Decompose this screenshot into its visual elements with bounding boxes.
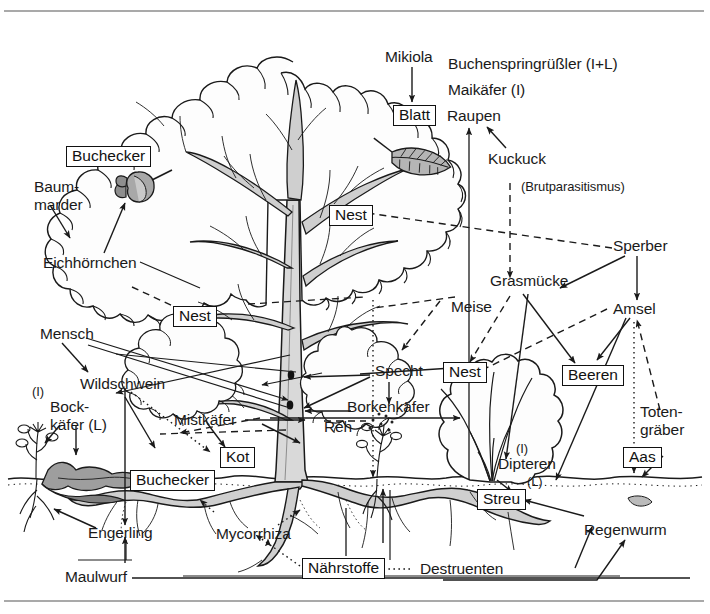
label-wildschwein: Wildschwein xyxy=(80,375,165,392)
label-amsel: Amsel xyxy=(613,300,656,317)
label-buchenspringruessler: Buchenspringrüßler (I+L) xyxy=(448,55,617,72)
label-bockkaefer: Bock- käfer (L) xyxy=(50,398,107,434)
label-buchecker-canopy: Buchecker xyxy=(66,146,151,167)
label-specht: Specht xyxy=(375,362,423,379)
label-dipteren: Dipteren xyxy=(498,455,556,472)
label-maikaefer: Maikäfer (I) xyxy=(448,81,525,98)
label-bockkaefer-i: (I) xyxy=(32,383,44,400)
label-kot: Kot xyxy=(220,447,255,468)
label-brutparasitismus: (Brutparasitismus) xyxy=(521,178,625,195)
label-mistkaefer: Mistkäfer xyxy=(174,411,236,428)
label-dipteren-l: (L) xyxy=(527,473,543,490)
label-mikiola: Mikiola xyxy=(385,48,433,65)
label-engerling: Engerling xyxy=(88,524,153,541)
label-grasmuecke: Grasmücke xyxy=(490,272,568,289)
label-borkenkaefer: Borkenkäfer xyxy=(347,398,429,415)
label-mycorrhiza: Mycorrhiza xyxy=(216,525,291,542)
label-totengraeber: Toten- gräber xyxy=(640,403,684,439)
label-meise: Meise xyxy=(451,298,492,315)
label-regenwurm: Regenwurm xyxy=(584,521,667,538)
label-beeren: Beeren xyxy=(562,365,624,386)
label-streu: Streu xyxy=(477,489,526,510)
figure-canvas: Buchecker Baum- marder Eichhörnchen Nest… xyxy=(0,0,710,614)
label-nest-shrub: Nest xyxy=(443,362,487,383)
label-kuckuck: Kuckuck xyxy=(488,150,546,167)
label-sperber: Sperber xyxy=(613,237,667,254)
label-nest-canopy-right: Nest xyxy=(329,205,373,226)
label-buchecker-ground: Buchecker xyxy=(130,470,215,491)
label-blatt: Blatt xyxy=(393,105,436,126)
label-maulwurf: Maulwurf xyxy=(65,568,127,585)
label-mensch: Mensch xyxy=(40,325,94,342)
label-reh: Reh xyxy=(324,418,352,435)
label-aas: Aas xyxy=(623,447,662,468)
label-raupen: Raupen xyxy=(447,107,501,124)
label-destruenten: Destruenten xyxy=(420,560,503,577)
label-nest-canopy-left: Nest xyxy=(173,306,217,327)
label-baummarder: Baum- marder xyxy=(34,178,83,214)
label-dipteren-i: (I) xyxy=(516,440,528,457)
label-naehrstoffe: Nährstoffe xyxy=(302,558,385,579)
label-eichhoernchen: Eichhörnchen xyxy=(43,254,137,271)
